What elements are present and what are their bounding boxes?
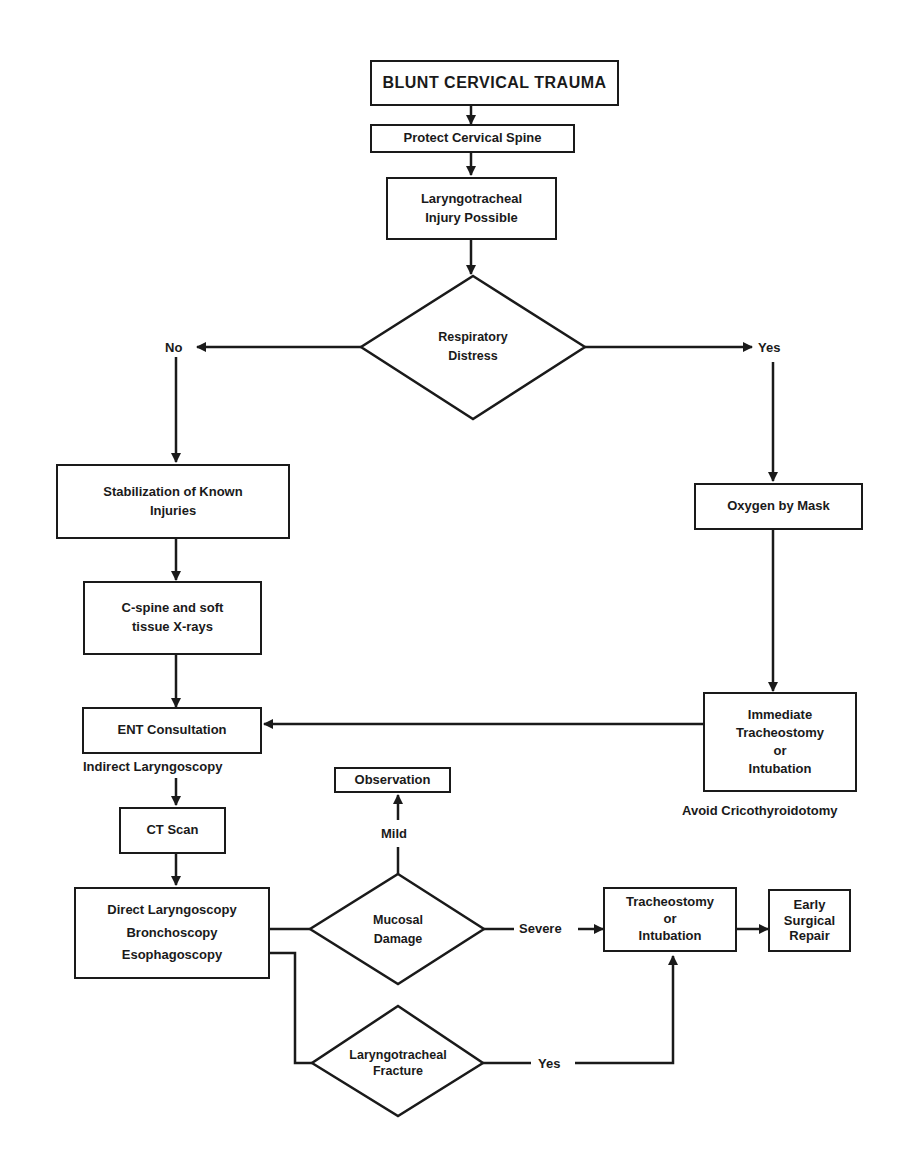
respiratory-distress-label: Respiratory Distress (393, 318, 553, 376)
stab-line-1: Stabilization of Known (103, 483, 242, 502)
observation-box: Observation (334, 767, 451, 793)
repair-line-3: Repair (789, 928, 829, 944)
xrays-box: C-spine and soft tissue X-rays (83, 581, 262, 655)
oxygen-text: Oxygen by Mask (727, 497, 830, 516)
direct-exam-box: Direct Laryngoscopy Bronchoscopy Esophag… (74, 887, 270, 979)
ent-text: ENT Consultation (117, 721, 226, 740)
mucosal-line-2: Damage (374, 930, 423, 949)
repair-line-2: Surgical (784, 913, 835, 929)
fracture-line-2: Fracture (373, 1063, 423, 1079)
injury-line-2: Injury Possible (425, 209, 517, 228)
mucosal-line-1: Mucosal (373, 911, 423, 930)
trach-or-intubation-box: Tracheostomy or Intubation (603, 887, 737, 952)
immediate-line-1: Immediate (748, 706, 812, 724)
protect-cervical-spine-box: Protect Cervical Spine (370, 124, 575, 153)
direct-line-1: Direct Laryngoscopy (107, 899, 236, 922)
stab-line-2: Injuries (150, 502, 196, 521)
distress-line-2: Distress (448, 347, 497, 366)
immediate-line-4: Intubation (749, 760, 812, 778)
protect-spine-text: Protect Cervical Spine (404, 129, 542, 148)
oxygen-by-mask-box: Oxygen by Mask (694, 483, 863, 530)
edge-label-fracture-yes: Yes (538, 1055, 560, 1073)
flowchart-canvas: BLUNT CERVICAL TRAUMA Protect Cervical S… (0, 0, 920, 1159)
ct-text: CT Scan (146, 821, 198, 840)
edge-label-yes: Yes (758, 339, 780, 357)
xrays-line-2: tissue X-rays (132, 618, 213, 637)
title-text: BLUNT CERVICAL TRAUMA (382, 71, 606, 94)
connector-layer (0, 0, 920, 1159)
direct-line-3: Esophagoscopy (122, 944, 222, 967)
trach-line-2: or (664, 911, 677, 928)
early-surgical-repair-box: Early Surgical Repair (768, 889, 851, 952)
injury-line-1: Laryngotracheal (421, 190, 522, 209)
xrays-line-1: C-spine and soft (122, 599, 224, 618)
line-direct-to-fracture (270, 953, 312, 1063)
stabilization-box: Stabilization of Known Injuries (56, 464, 290, 539)
title-box: BLUNT CERVICAL TRAUMA (370, 60, 619, 106)
injury-possible-box: Laryngotracheal Injury Possible (386, 177, 557, 240)
trach-line-3: Intubation (639, 928, 702, 945)
direct-line-2: Bronchoscopy (126, 922, 217, 945)
immediate-line-2: Tracheostomy (736, 724, 824, 742)
trach-line-1: Tracheostomy (626, 894, 714, 911)
repair-line-1: Early (794, 897, 826, 913)
immediate-trach-box: Immediate Tracheostomy or Intubation (703, 692, 857, 792)
ent-consultation-box: ENT Consultation (82, 707, 262, 754)
observation-text: Observation (355, 771, 431, 790)
indirect-laryngoscopy-label: Indirect Laryngoscopy (83, 758, 222, 776)
arrow-fracture-yes-to-trach (575, 956, 673, 1063)
distress-line-1: Respiratory (438, 328, 507, 347)
laryngotracheal-fracture-label: Laryngotracheal Fracture (318, 1043, 478, 1083)
edge-label-severe: Severe (519, 920, 562, 938)
edge-label-no: No (165, 339, 182, 357)
mucosal-damage-label: Mucosal Damage (338, 900, 458, 960)
edge-label-mild: Mild (381, 825, 407, 843)
ct-scan-box: CT Scan (119, 807, 226, 854)
fracture-line-1: Laryngotracheal (349, 1047, 446, 1063)
avoid-cricothyroidotomy-label: Avoid Cricothyroidotomy (682, 802, 838, 820)
immediate-line-3: or (774, 742, 787, 760)
